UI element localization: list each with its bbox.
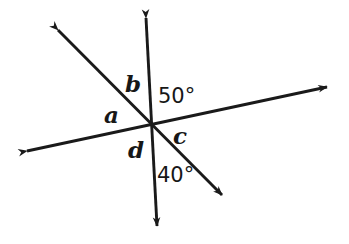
angle-label-d: d <box>128 138 144 161</box>
angle-label-c: c <box>173 124 187 147</box>
geometry-diagram: b a d c 50° 40° <box>0 0 349 244</box>
angle-label-b: b <box>125 72 141 95</box>
diagonal-line <box>58 30 222 195</box>
angle-label-40-degrees: 40° <box>157 165 194 186</box>
angle-label-a: a <box>104 103 119 126</box>
angle-label-50-degrees: 50° <box>158 86 195 107</box>
